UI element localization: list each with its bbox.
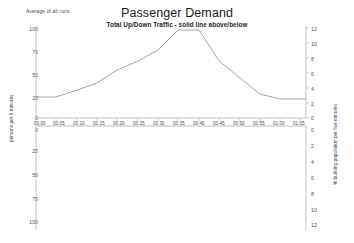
y-axis-right-tick-marks — [306, 28, 309, 118]
passenger-demand-chart: Average of all runs Passenger Demand Tot… — [0, 0, 354, 243]
series-line-up-traffic — [36, 30, 306, 99]
y-axis-left-tick-marks — [33, 28, 36, 118]
plot-area — [0, 0, 354, 243]
